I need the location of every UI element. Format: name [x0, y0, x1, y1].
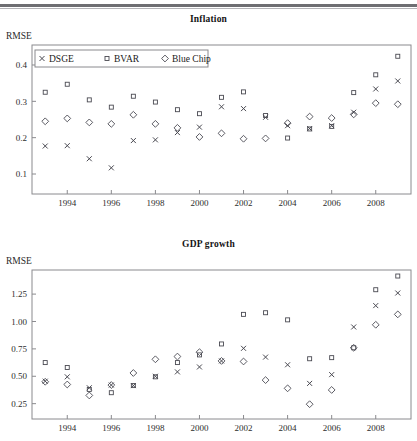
data-point-x [351, 324, 356, 329]
figure-page: Inflation RMSE 0.10.20.30.41994199619982… [0, 0, 417, 441]
y-tick-label: 1.25 [11, 289, 27, 299]
data-point-square [197, 353, 201, 357]
data-point-x [65, 374, 70, 379]
data-point-x [285, 362, 290, 367]
data-point-square [43, 361, 47, 365]
gdp-growth-scatter-plot: 0.250.500.751.001.2519941996199820002002… [0, 0, 417, 441]
data-point-x [263, 355, 268, 360]
data-point-diamond [152, 356, 159, 363]
data-point-square [286, 318, 290, 322]
x-tick-label: 2002 [235, 423, 253, 433]
x-tick-label: 2000 [190, 423, 209, 433]
x-tick-label: 1998 [146, 423, 165, 433]
data-point-diamond [306, 401, 313, 408]
x-tick-label: 2004 [279, 423, 298, 433]
data-point-square [264, 311, 268, 315]
data-point-x [373, 303, 378, 308]
data-point-square [308, 357, 312, 361]
data-point-diamond [130, 370, 137, 377]
data-point-diamond [284, 385, 291, 392]
x-tick-label: 1994 [58, 423, 77, 433]
data-point-diamond [372, 321, 379, 328]
data-point-x [175, 369, 180, 374]
series-blue-chip [42, 311, 401, 408]
y-tick-label: 0.25 [11, 399, 27, 409]
data-point-square [220, 342, 224, 346]
y-tick-label: 1.00 [11, 317, 27, 327]
data-point-diamond [394, 311, 401, 318]
data-point-diamond [262, 377, 269, 384]
data-point-square [330, 356, 334, 360]
x-tick-label: 2006 [323, 423, 342, 433]
data-point-diamond [64, 381, 71, 388]
data-point-x [329, 372, 334, 377]
data-point-square [242, 312, 246, 316]
y-tick-label: 0.75 [11, 344, 27, 354]
data-point-square [175, 361, 179, 365]
data-point-x [307, 381, 312, 386]
data-point-square [396, 274, 400, 278]
data-point-x [197, 364, 202, 369]
series-bvar [43, 274, 400, 395]
data-point-square [65, 366, 69, 370]
data-point-diamond [86, 392, 93, 399]
data-point-x [395, 291, 400, 296]
data-point-square [109, 391, 113, 395]
x-tick-label: 2008 [367, 423, 386, 433]
data-point-diamond [240, 358, 247, 365]
x-tick-label: 1996 [102, 423, 121, 433]
data-point-diamond [174, 353, 181, 360]
series-dsge [43, 291, 401, 391]
data-point-square [374, 288, 378, 292]
data-point-x [241, 346, 246, 351]
y-tick-label: 0.50 [11, 371, 27, 381]
data-point-diamond [328, 387, 335, 394]
